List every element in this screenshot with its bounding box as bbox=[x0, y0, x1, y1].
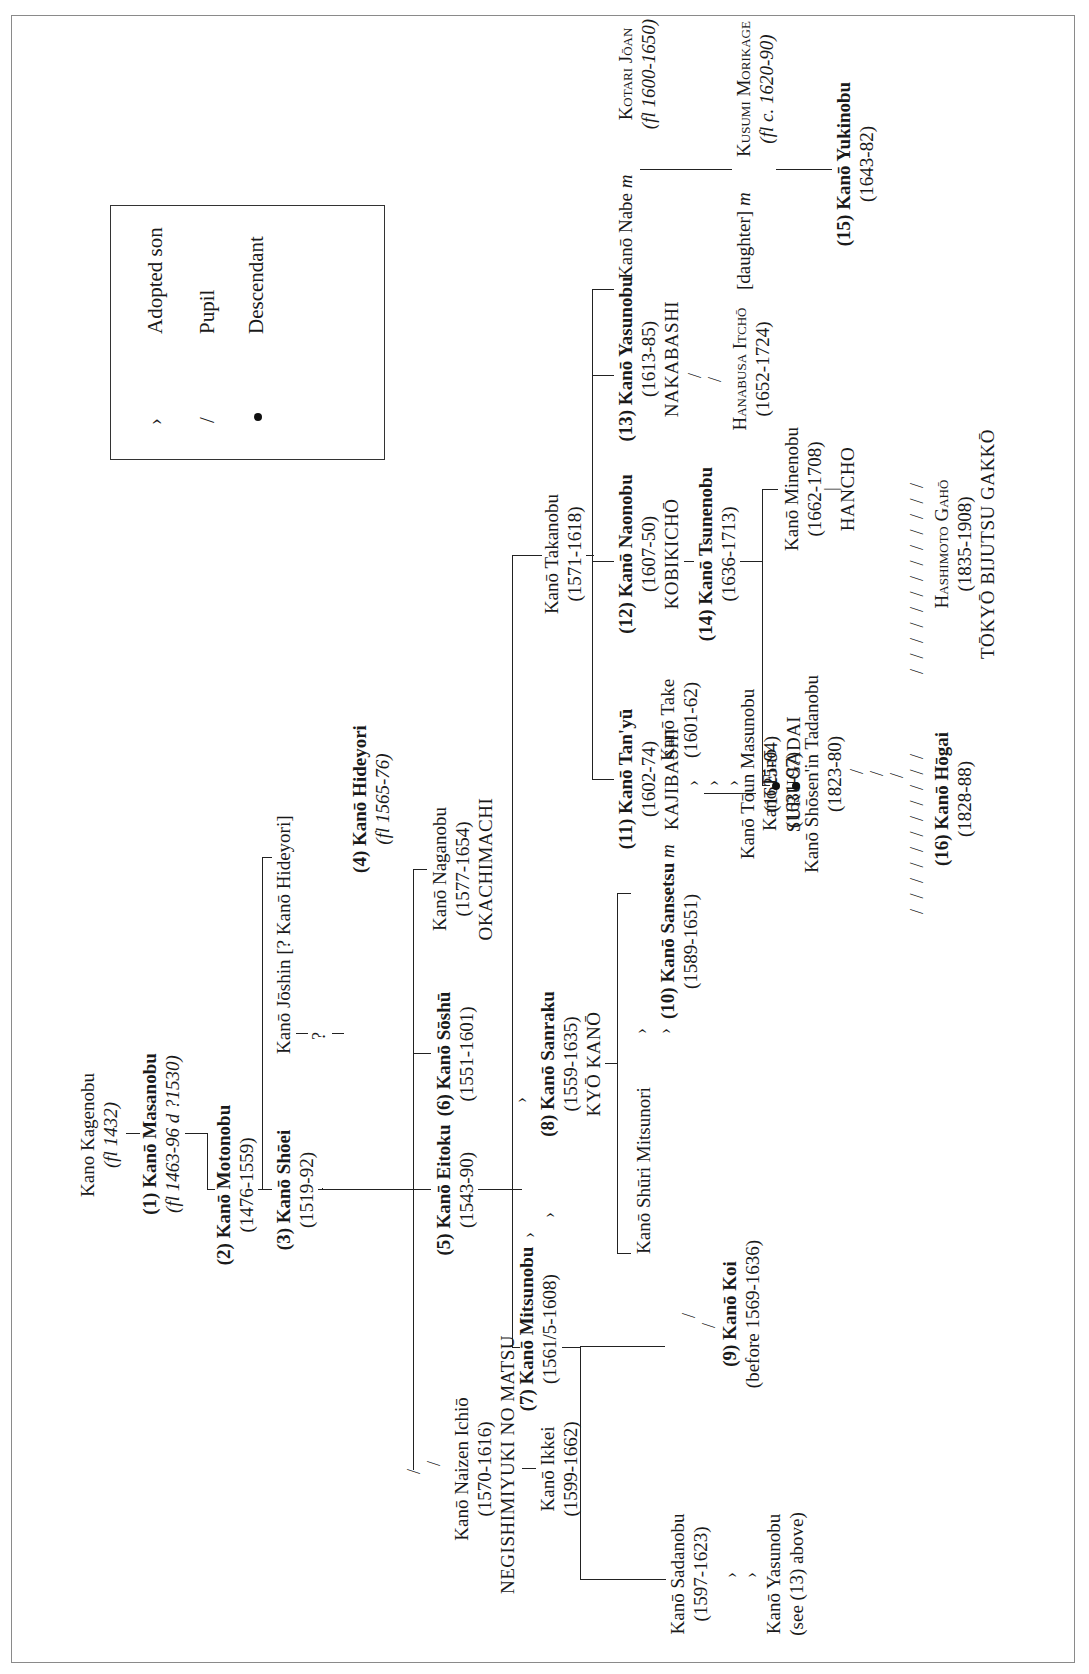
genealogy-chart: › Adopted son / Pupil Descendant Kano Ka… bbox=[0, 0, 1089, 1674]
pupil-mark: / bbox=[706, 377, 724, 382]
node-hideyori: (4) Kanō Hideyori (fl 1565-76) bbox=[348, 704, 394, 894]
connector bbox=[762, 490, 763, 786]
pupil-mark: / bbox=[888, 773, 906, 778]
node-itcho: Hanabusa Itchō (1652-1724) bbox=[728, 289, 774, 449]
node-gaho: Hashimoto Gahō (1835-1908) TŌKYŌ BIJUTSU… bbox=[930, 414, 999, 674]
connector bbox=[512, 555, 542, 556]
connector bbox=[592, 375, 614, 376]
connector bbox=[207, 1133, 208, 1190]
connector bbox=[478, 1189, 522, 1190]
node-mitsunori: Kanō Shūri Mitsunori bbox=[632, 1034, 655, 1254]
pupil-mark: / bbox=[848, 769, 866, 774]
pupil-chain-gaho: / / / / / / / / / / / bbox=[908, 751, 926, 914]
connector bbox=[740, 561, 762, 562]
pupil-mark: / bbox=[686, 373, 704, 378]
adopted-mark: › bbox=[656, 1028, 674, 1034]
connector bbox=[413, 869, 427, 870]
connector bbox=[262, 858, 263, 1190]
node-ichio: Kanō Naizen Ichiō (1570-1616) NEGISHIMIY… bbox=[450, 1344, 519, 1594]
node-yukinobu: (15) Kanō Yukinobu (1643-82) bbox=[832, 64, 878, 264]
node-joan: Kotari Jōan (fl 1600-1650) bbox=[614, 4, 660, 144]
adopted-mark: › bbox=[722, 1572, 740, 1578]
node-masanobu: (1) Kanō Masanobu (fl 1463-96 d ?1530) bbox=[138, 1024, 184, 1244]
legend-adopted-label: Adopted son bbox=[143, 227, 168, 334]
connector bbox=[617, 1253, 631, 1254]
connector bbox=[592, 289, 614, 290]
pupil-mark: / bbox=[405, 1469, 423, 1474]
adopted-mark: › bbox=[704, 780, 722, 786]
connector-dashed bbox=[332, 1033, 344, 1034]
connector bbox=[413, 1053, 431, 1054]
node-morikage: Kusumi Morikage (fl c. 1620-90) bbox=[732, 4, 778, 174]
adopted-symbol-icon: › bbox=[143, 418, 168, 425]
connector bbox=[592, 290, 593, 780]
node-tadanobu: Kanō Shōsen'in Tadanobu (1823-80) bbox=[800, 654, 846, 894]
connector bbox=[762, 785, 770, 786]
connector bbox=[592, 779, 614, 780]
descendant-mark bbox=[792, 782, 800, 790]
adopted-mark: › bbox=[520, 1232, 538, 1238]
node-koi: (9) Kanō Koi (before 1569-1636) bbox=[718, 1209, 764, 1419]
pupil-chain-hogai: / / / / / / / / / / / / / bbox=[908, 480, 926, 674]
connector bbox=[617, 893, 631, 894]
node-eitoku: (5) Kanō Eitoku (1543-90) bbox=[432, 1120, 478, 1260]
pupil-mark: / bbox=[680, 1313, 698, 1318]
node-shoei: (3) Kanō Shōei (1519-92) bbox=[272, 1120, 318, 1260]
connector bbox=[684, 561, 694, 562]
pupil-mark: / bbox=[868, 771, 886, 776]
node-mitsunobu: (7) Kanō Mitsunobu (1561/5-1608) bbox=[515, 1229, 561, 1429]
node-masunobu: Kanō Tōun Masunobu (1625-94) SURUGADAI bbox=[736, 674, 805, 874]
node-naonobu: (12) Kanō Naonobu (1607-50) KOBIKICHŌ bbox=[614, 464, 683, 644]
node-soshu: (6) Kanō Sōshū (1551-1601) bbox=[432, 979, 478, 1129]
adopted-mark: › bbox=[632, 1028, 650, 1034]
connector bbox=[617, 894, 618, 1254]
connector bbox=[318, 1189, 413, 1190]
connector bbox=[413, 870, 414, 1470]
connector-dashed bbox=[296, 1033, 308, 1034]
connector bbox=[522, 1468, 536, 1469]
descendant-mark bbox=[772, 782, 780, 790]
pupil-symbol-icon: / bbox=[195, 417, 220, 423]
connector bbox=[580, 1579, 666, 1580]
node-kagenobu: Kano Kagenobu (fl 1432) bbox=[76, 1070, 122, 1200]
legend-pupil-label: Pupil bbox=[195, 290, 220, 334]
connector bbox=[580, 1346, 581, 1580]
connector bbox=[512, 556, 513, 1348]
connector bbox=[762, 489, 778, 490]
node-hogai: (16) Kanō Hōgai (1828-88) bbox=[930, 714, 976, 884]
connector bbox=[562, 1347, 580, 1348]
node-sanraku: (8) Kanō Sanraku (1559-1635) KYŌ KANŌ bbox=[536, 974, 605, 1154]
legend: › Adopted son / Pupil Descendant bbox=[110, 205, 385, 460]
connector bbox=[262, 857, 272, 858]
node-yasunobu-ref: Kanō Yasunobu (see (13) above) bbox=[762, 1504, 808, 1644]
adopted-mark: › bbox=[512, 1097, 530, 1103]
node-tsunenobu: (14) Kanō Tsunenobu (1636-1713) bbox=[694, 454, 740, 654]
node-nabe: Kanō Nabe m bbox=[614, 139, 637, 279]
connector bbox=[640, 169, 732, 170]
node-sadanobu: Kanō Sadanobu (1597-1623) bbox=[666, 1504, 712, 1644]
adopted-mark: › bbox=[684, 780, 702, 786]
connector bbox=[580, 1346, 665, 1347]
node-yasunobu: (13) Kanō Yasunobu (1613-85) NAKABASHI bbox=[614, 264, 683, 454]
uncertain-mark: ? bbox=[310, 1032, 328, 1040]
node-joshin: Kanō Jōshin [? Kanō Hideyori] bbox=[272, 754, 295, 1054]
node-motonobu: (2) Kanō Motonobu (1476-1559) bbox=[212, 1100, 258, 1270]
adopted-mark: › bbox=[742, 1572, 760, 1578]
connector bbox=[185, 1133, 207, 1134]
node-naganobu: Kanō Naganobu (1577-1654) OKACHIMACHI bbox=[428, 794, 497, 944]
connector bbox=[605, 1063, 617, 1064]
legend-descendant-label: Descendant bbox=[244, 236, 269, 334]
pupil-mark: / bbox=[425, 1461, 443, 1466]
pupil-mark: / bbox=[700, 1323, 718, 1328]
descendant-symbol-icon bbox=[254, 413, 262, 421]
connector bbox=[413, 1189, 431, 1190]
node-tanyu: (11) Kanō Tan'yū (1602-74) KAJIBASHI bbox=[614, 694, 683, 864]
node-takanobu: Kanō Takanobu (1571-1618) bbox=[540, 474, 586, 634]
adopted-mark: › bbox=[540, 1212, 558, 1218]
connector bbox=[592, 561, 614, 562]
node-minenobu: Kanō Minenobu (1662-1708) | HANCHO bbox=[780, 414, 859, 564]
connector bbox=[776, 169, 832, 170]
connector bbox=[258, 1189, 272, 1190]
